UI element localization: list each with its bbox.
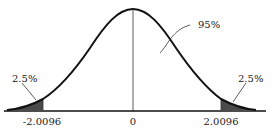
left-leader-line bbox=[22, 83, 36, 100]
tick-label-right: 2.0096 bbox=[204, 116, 239, 127]
tick-label-left: -2.0096 bbox=[23, 116, 61, 127]
t-distribution-chart: 2.5% 95% 2.5% -2.0096 0 2.0096 bbox=[0, 0, 276, 139]
left-tail-label: 2.5% bbox=[12, 73, 37, 84]
center-leader-line bbox=[160, 25, 190, 53]
center-area-label: 95% bbox=[198, 19, 220, 30]
tick-label-center: 0 bbox=[130, 116, 136, 127]
right-tail-label: 2.5% bbox=[238, 73, 263, 84]
right-leader-line bbox=[233, 83, 246, 102]
